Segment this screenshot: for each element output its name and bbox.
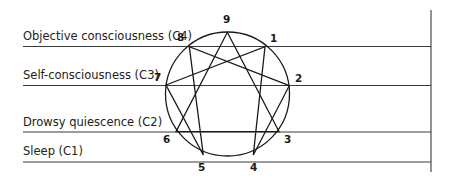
enneagram-circle — [166, 32, 290, 156]
point-label-3: 3 — [284, 134, 291, 145]
level-label-c4: Objective consciousness (C4) — [23, 31, 192, 43]
level-label-c3: Self-consciousness (C3) — [23, 70, 159, 82]
point-label-4: 4 — [250, 162, 257, 173]
point-label-5: 5 — [198, 162, 205, 173]
point-label-6: 6 — [163, 134, 170, 145]
level-label-c1: Sleep (C1) — [23, 146, 83, 158]
point-label-7: 7 — [154, 72, 161, 83]
point-label-9: 9 — [223, 14, 230, 25]
point-label-1: 1 — [270, 33, 277, 44]
point-label-2: 2 — [295, 73, 302, 84]
point-label-8: 8 — [177, 32, 184, 43]
level-label-c2: Drowsy quiescence (C2) — [23, 117, 162, 129]
